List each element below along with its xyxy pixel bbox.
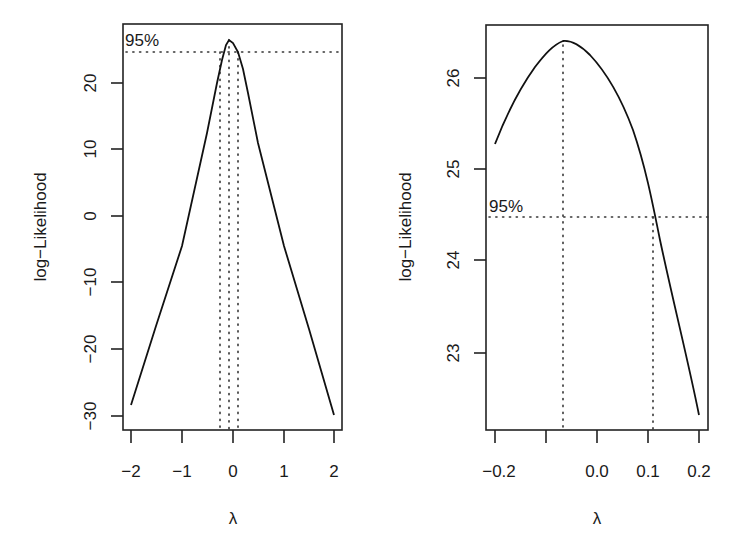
left-y-axis-label: log−Likelihood	[31, 172, 50, 281]
left-panel: 20 10 0 −10 −20 −30 −2 −1 0 1 2 log−Like…	[31, 24, 342, 528]
right-panel: 26 25 24 23 −0.2 0.0 0.1 0.2 log−Likelih…	[396, 25, 711, 528]
right-x-axis-label: λ	[593, 509, 602, 528]
left-xtick-label: −2	[121, 462, 140, 481]
left-ytick-label: −20	[81, 335, 100, 364]
left-xtick-label: 0	[228, 462, 237, 481]
right-plot-frame	[486, 25, 708, 430]
left-xtick-label: 1	[279, 462, 288, 481]
left-ytick-label: −30	[81, 402, 100, 431]
left-y-axis: 20 10 0 −10 −20 −30	[81, 74, 123, 431]
right-ytick-label: 25	[444, 160, 463, 179]
left-x-axis-label: λ	[229, 509, 238, 528]
right-xtick-label: 0.0	[585, 462, 609, 481]
right-likelihood-curve	[495, 41, 699, 415]
right-y-axis: 26 25 24 23	[444, 69, 486, 363]
left-x-axis: −2 −1 0 1 2	[121, 430, 338, 481]
left-ytick-label: 0	[81, 211, 100, 220]
right-x-axis: −0.2 0.0 0.1 0.2	[482, 430, 711, 481]
right-ytick-label: 26	[444, 69, 463, 88]
right-ytick-label: 24	[444, 251, 463, 270]
left-plot-frame	[123, 24, 342, 430]
right-ytick-label: 23	[444, 344, 463, 363]
right-ci-label: 95%	[489, 197, 523, 216]
left-ytick-label: 20	[81, 74, 100, 93]
right-xtick-label: 0.1	[636, 462, 660, 481]
left-ytick-label: −10	[81, 268, 100, 297]
left-likelihood-curve	[131, 40, 334, 415]
left-ci-label: 95%	[125, 31, 159, 50]
right-xtick-label: −0.2	[482, 462, 516, 481]
right-y-axis-label: log−Likelihood	[396, 172, 415, 281]
right-xtick-label: 0.2	[687, 462, 711, 481]
left-ytick-label: 10	[81, 140, 100, 159]
left-xtick-label: 2	[329, 462, 338, 481]
boxcox-figure: 20 10 0 −10 −20 −30 −2 −1 0 1 2 log−Like…	[0, 0, 742, 542]
left-xtick-label: −1	[172, 462, 191, 481]
